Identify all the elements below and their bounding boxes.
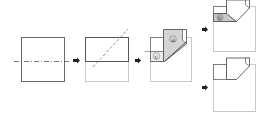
step-4a-result: b	[214, 0, 256, 52]
arrow-icon	[135, 58, 141, 64]
arrow-icon	[202, 85, 208, 91]
folding-diagram: a c b	[0, 0, 271, 121]
step-1-square	[14, 38, 69, 82]
step-2-folded	[86, 29, 129, 82]
arrow-icon	[73, 58, 80, 64]
arrow-icon	[202, 27, 208, 33]
step-3-flaps: a c	[145, 30, 192, 82]
label-b: b	[218, 14, 222, 21]
label-c: c	[155, 53, 158, 60]
step-4b-result	[214, 58, 256, 112]
label-a: a	[171, 36, 175, 43]
